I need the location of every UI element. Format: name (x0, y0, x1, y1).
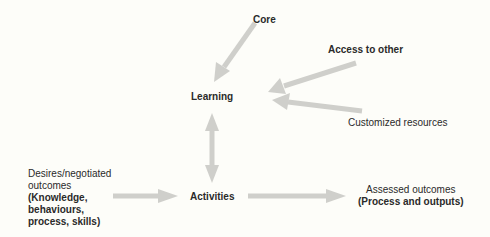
assessed-line-2: (Process and outputs) (358, 196, 464, 208)
desires-line-5: process, skills) (28, 216, 100, 228)
node-core: Core (253, 14, 276, 26)
arrow-access-to-learning (268, 63, 356, 94)
arrow-learning-activities (205, 113, 219, 183)
arrow-desires-to-activities (113, 189, 178, 203)
node-activities: Activities (190, 191, 234, 203)
node-learning: Learning (191, 91, 233, 103)
desires-line-4: behaviours, (28, 204, 84, 216)
desires-line-3: (Knowledge, (28, 192, 87, 204)
arrow-activities-to-assessed (248, 189, 346, 203)
desires-line-2: outcomes (28, 180, 71, 192)
assessed-line-1: Assessed outcomes (366, 184, 456, 196)
arrow-customized-to-learning (272, 93, 362, 111)
node-customized-resources: Customized resources (348, 117, 447, 129)
node-access-to-other: Access to other (328, 44, 403, 56)
desires-line-1: Desires/negotiated (28, 168, 111, 180)
arrow-core-to-learning (214, 23, 255, 82)
